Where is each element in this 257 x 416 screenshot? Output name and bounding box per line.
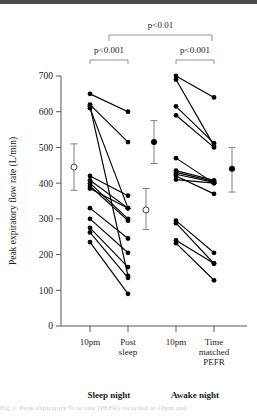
pefr-paired-chart: 0100200300400500600700 Peak expiratory f… <box>0 0 257 416</box>
data-point <box>126 275 131 280</box>
x-category-label: matched <box>199 347 230 357</box>
data-point <box>88 206 93 211</box>
x-category-label: 10pm <box>166 337 187 347</box>
significance-bracket-p-between <box>109 35 212 41</box>
significance-bracket-p-sleep <box>90 60 128 64</box>
data-point <box>126 265 131 270</box>
y-tick-label: 700 <box>39 71 54 81</box>
x-category-label: sleep <box>119 347 138 357</box>
p-value-label-p-between: p<0.01 <box>148 20 173 30</box>
data-point <box>174 177 179 182</box>
p-value-label-p-sleep: p<0.001 <box>94 45 124 55</box>
y-tick-label: 500 <box>39 143 54 153</box>
data-point <box>212 145 217 150</box>
x-group-label: Awake night <box>171 390 219 400</box>
x-tick-marks <box>90 326 214 332</box>
data-point <box>212 250 217 255</box>
data-point <box>174 77 179 82</box>
summary-mean-marker <box>71 164 77 170</box>
data-point <box>212 278 217 283</box>
paired-line <box>90 94 128 112</box>
x-category-label: PEFR <box>203 357 225 367</box>
data-point <box>212 95 217 100</box>
p-value-label-p-awake: p<0.001 <box>180 45 210 55</box>
x-group-labels: Sleep nightAwake night <box>88 390 219 400</box>
y-tick-marks <box>56 76 61 326</box>
data-point <box>126 291 131 296</box>
axes: 0100200300400500600700 <box>39 71 247 332</box>
summary-mean-marker <box>151 139 157 145</box>
paired-connector-lines <box>90 76 214 294</box>
data-point <box>126 109 131 114</box>
y-tick-label: 400 <box>39 179 54 189</box>
x-category-labels: 10pmPostsleep10pmTimematchedPEFR <box>80 337 230 367</box>
paired-line <box>176 115 214 147</box>
y-tick-labels: 0100200300400500600700 <box>39 71 54 331</box>
data-point <box>88 225 93 230</box>
data-point <box>88 230 93 235</box>
summary-mean-marker <box>143 207 149 213</box>
data-point <box>174 241 179 246</box>
data-point <box>88 186 93 191</box>
data-point <box>174 221 179 226</box>
data-point <box>126 218 131 223</box>
data-point <box>88 240 93 245</box>
data-point <box>88 106 93 111</box>
x-category-label: Time <box>205 337 224 347</box>
x-category-label: Post <box>120 337 136 347</box>
data-point <box>212 191 217 196</box>
summary-error-bars <box>71 121 236 230</box>
data-point <box>174 156 179 161</box>
y-tick-label: 0 <box>48 321 53 331</box>
x-group-label: Sleep night <box>88 390 131 400</box>
data-point <box>174 104 179 109</box>
paired-line <box>90 232 128 277</box>
data-point <box>212 181 217 186</box>
data-point <box>212 261 217 266</box>
data-point <box>88 216 93 221</box>
data-point <box>126 140 131 145</box>
y-tick-label: 300 <box>39 214 54 224</box>
paired-line <box>176 76 214 97</box>
y-tick-label: 600 <box>39 107 54 117</box>
significance-bracket-p-awake <box>176 60 214 64</box>
paired-line <box>90 183 128 219</box>
data-point <box>174 113 179 118</box>
figure-panel: 0100200300400500600700 Peak expiratory f… <box>0 0 257 416</box>
data-point <box>126 250 131 255</box>
significance-labels: p<0.001p<0.001p<0.01 <box>94 20 210 55</box>
x-category-label: 10pm <box>80 337 101 347</box>
data-point <box>126 193 131 198</box>
y-axis-title: Peak expiratory flow rate (L/min) <box>8 137 19 265</box>
figure-caption: Fig 1. Peak expiratory flow rate (PEFR) … <box>0 404 257 412</box>
data-point <box>126 236 131 241</box>
data-point <box>88 174 93 179</box>
y-tick-label: 200 <box>39 250 54 260</box>
y-tick-label: 100 <box>39 286 54 296</box>
summary-mean-marker <box>229 166 235 172</box>
data-point <box>88 91 93 96</box>
data-point <box>212 141 217 146</box>
data-point <box>126 206 131 211</box>
